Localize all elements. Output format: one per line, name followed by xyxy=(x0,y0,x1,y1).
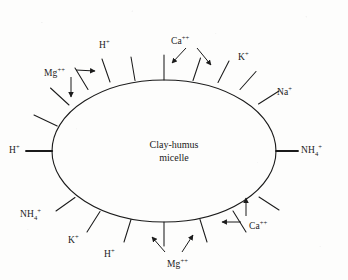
ion-element: K xyxy=(238,52,245,62)
ion-charge: + xyxy=(75,233,79,240)
ion-element: Mg xyxy=(167,259,180,269)
exchange-site-tick xyxy=(259,91,280,104)
ion-element: NH xyxy=(20,209,34,219)
ion-label-hydrogen-top: H+ xyxy=(99,40,110,50)
ion-subscript: 4 xyxy=(34,214,37,221)
ion-charge: + xyxy=(111,247,115,254)
ion-element: Ca xyxy=(171,36,182,46)
exchange-site-tick xyxy=(240,72,256,90)
ion-element: NH xyxy=(301,145,315,155)
ion-label-ammonium-bottom-left: NH4+ xyxy=(20,209,41,219)
ion-charge: ++ xyxy=(180,257,188,264)
arrow-magnesium-right xyxy=(76,70,95,71)
exchange-site-tick xyxy=(193,58,201,81)
exchange-site-tick xyxy=(87,212,100,233)
ion-label-potassium-top-right: K+ xyxy=(238,52,249,62)
exchange-site-tick xyxy=(200,220,207,243)
ion-subscript: 4 xyxy=(315,150,318,157)
ion-label-calcium-top: Ca++ xyxy=(171,36,189,46)
ion-charge: ++ xyxy=(182,34,190,41)
exchange-site-tick xyxy=(124,220,131,243)
exchange-site-tick xyxy=(131,57,135,81)
ion-element: K xyxy=(68,235,75,245)
exchange-site-tick xyxy=(102,59,110,82)
exchange-site-tick xyxy=(218,61,229,83)
exchange-site-tick xyxy=(75,68,88,90)
exchange-site-tick xyxy=(259,197,279,210)
micelle-caption: Clay-humus micelle xyxy=(0,138,348,164)
ion-label-ammonium-right: NH4+ xyxy=(301,145,322,155)
ion-element: Ca xyxy=(249,221,260,231)
ion-label-hydrogen-left: H+ xyxy=(9,145,20,155)
ion-charge: + xyxy=(318,143,322,150)
micelle-caption-line2: micelle xyxy=(0,151,348,164)
arrow-calcium-top-left xyxy=(172,48,186,63)
ion-element: Na xyxy=(277,87,288,97)
ion-charge: ++ xyxy=(57,66,65,73)
arrow-magnesium-bottom-left xyxy=(152,237,165,252)
clay-humus-micelle-figure: Clay-humus micelle H+Ca++K+Na+Mg++H+NH4+… xyxy=(0,0,348,280)
ion-charge: + xyxy=(37,207,41,214)
ion-label-calcium-bottom-right: Ca++ xyxy=(249,221,267,231)
exchange-site-tick xyxy=(34,115,57,126)
exchange-site-tick xyxy=(56,198,75,212)
exchange-site-tick xyxy=(51,88,70,105)
ion-label-potassium-bottom-left: K+ xyxy=(68,235,79,245)
ion-charge: ++ xyxy=(260,219,268,226)
ion-charge: + xyxy=(245,50,249,57)
ion-charge: + xyxy=(16,143,20,150)
ion-charge: + xyxy=(288,85,292,92)
arrow-magnesium-bottom-right xyxy=(182,235,193,252)
ion-label-magnesium-top-left: Mg++ xyxy=(44,68,65,78)
ion-element: Mg xyxy=(44,68,57,78)
ion-charge: + xyxy=(106,38,110,45)
ion-element: H xyxy=(99,40,106,50)
ion-label-sodium-right-upper: Na+ xyxy=(277,87,292,97)
ion-label-hydrogen-bottom-left: H+ xyxy=(104,249,115,259)
ion-element: H xyxy=(104,249,111,259)
ion-label-magnesium-bottom: Mg++ xyxy=(167,259,188,269)
ion-element: H xyxy=(9,145,16,155)
micelle-caption-line1: Clay-humus xyxy=(0,138,348,151)
